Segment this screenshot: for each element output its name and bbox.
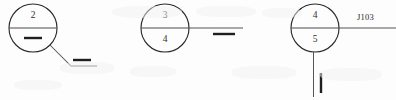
balloon-bottom-number-2: 4 (163, 34, 168, 44)
weld-callout-group-2[interactable]: 3 4 (141, 4, 243, 52)
balloon-bottom-number-3: 5 (313, 34, 318, 44)
joint-label-j103: J103 (357, 12, 374, 22)
weld-symbol-diagram: 2 3 4 4 5 J103 (0, 0, 396, 100)
diagram-canvas: 2 3 4 4 5 J103 (0, 0, 396, 100)
balloon-top-number-1: 2 (31, 10, 36, 20)
leader-line-1[interactable] (50, 45, 97, 66)
balloon-top-number-2: 3 (163, 10, 168, 20)
balloon-top-number-3: 4 (313, 10, 318, 20)
weld-callout-group-3[interactable]: 4 5 J103 (291, 4, 396, 97)
weld-callout-group-1[interactable]: 2 (9, 4, 97, 66)
